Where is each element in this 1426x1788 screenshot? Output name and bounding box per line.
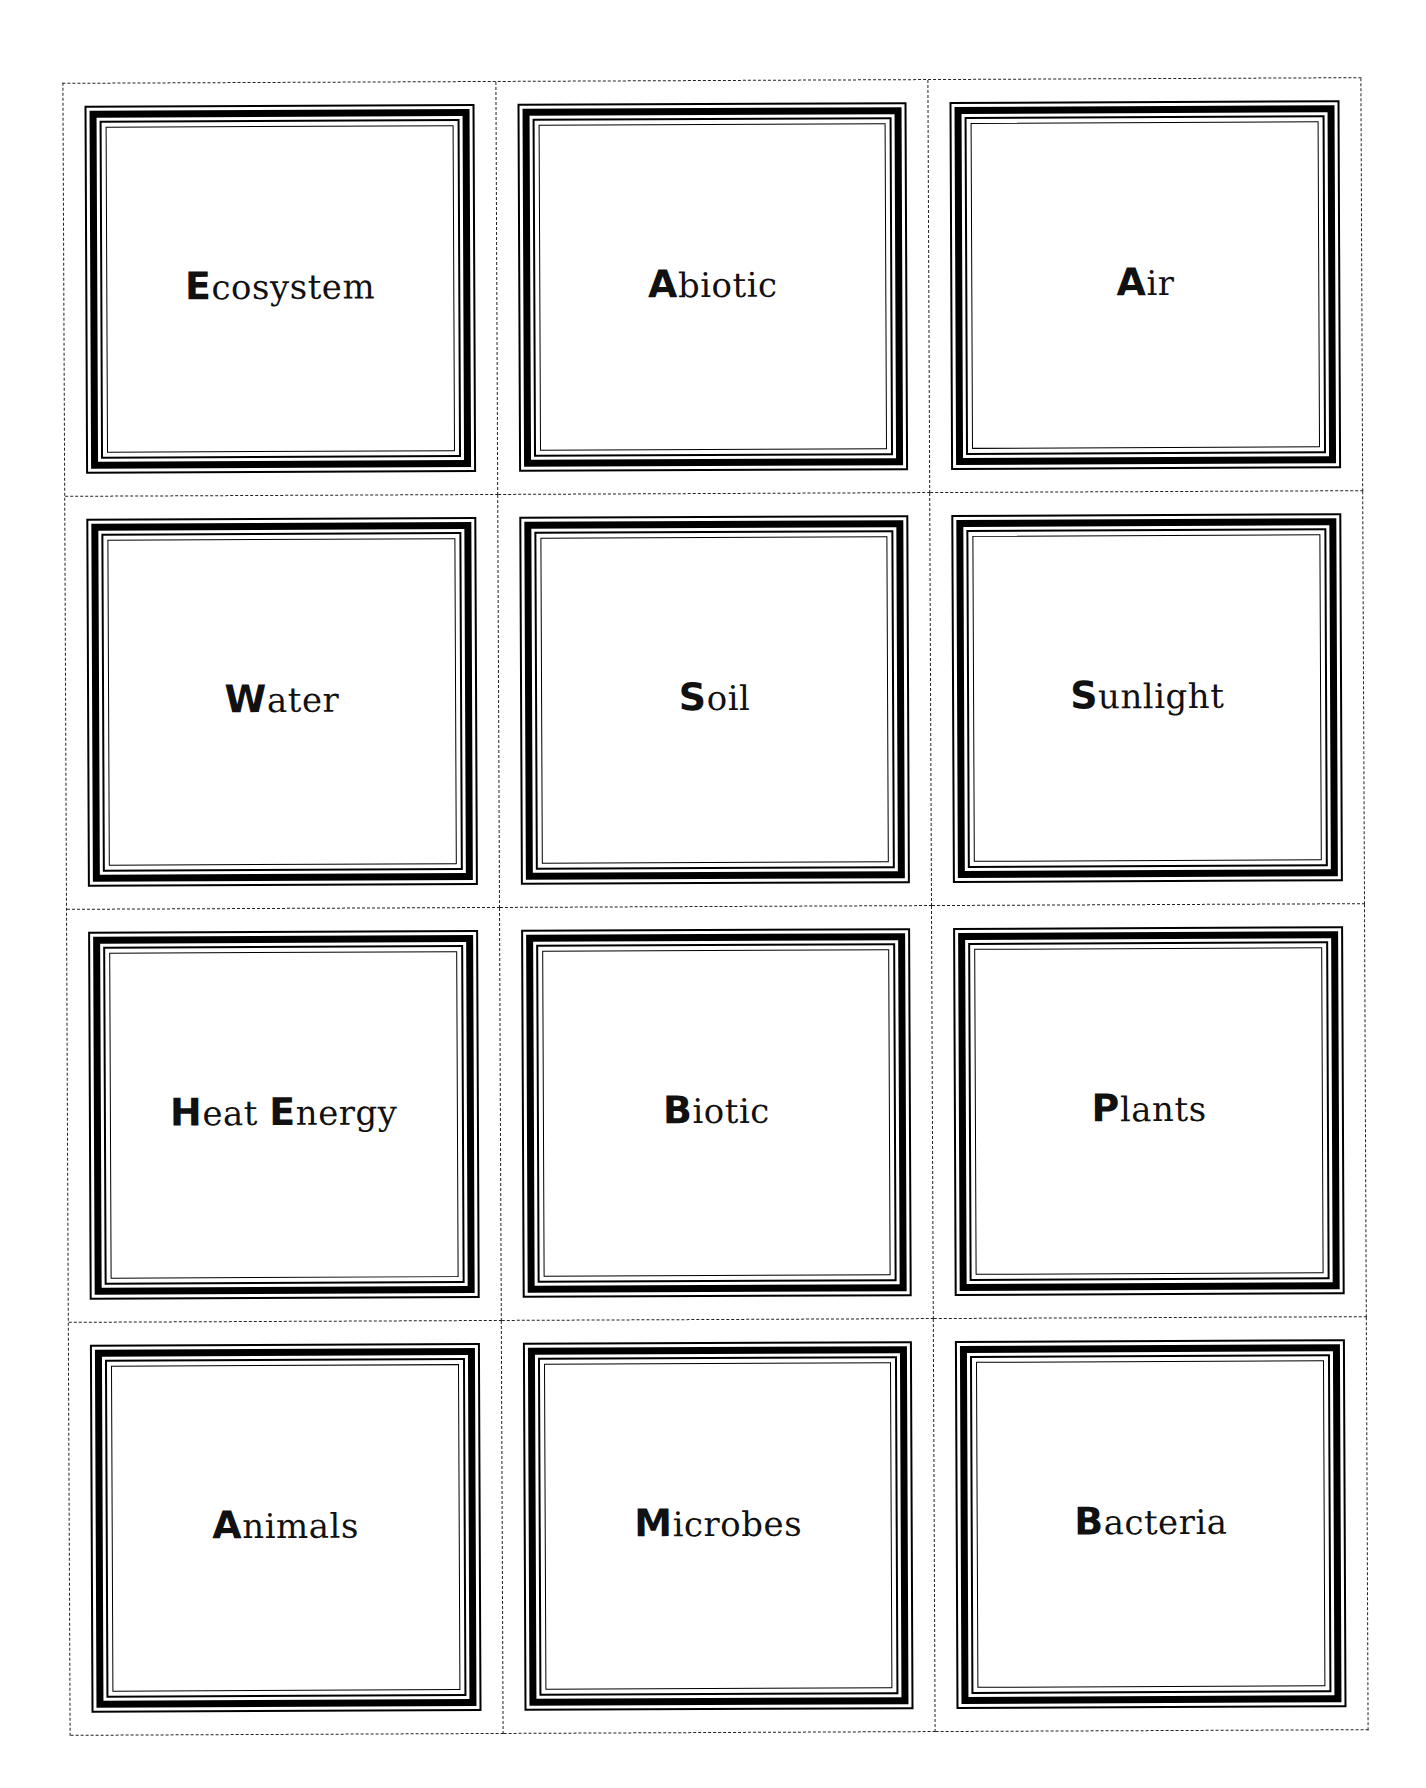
card-label-water: Water [224,677,339,722]
card-rest: ater [267,680,339,720]
card-initial: S [679,675,707,719]
card-initial: H [170,1090,203,1134]
card-label-microbes: Microbes [634,1501,802,1546]
card-cell-biotic: Biotic [500,906,934,1321]
card-initial: S [1070,673,1098,717]
card-initial: A [648,262,678,306]
card-rest-2: nergy [296,1092,398,1132]
card-frame: Air [950,100,1341,470]
card-cell-bacteria: Bacteria [934,1317,1368,1732]
card-label-soil: Soil [679,675,751,719]
card-initial: B [663,1088,693,1132]
card-cell-sunlight: Sunlight [931,491,1365,906]
card-rest: unlight [1098,676,1225,717]
flashcard-sheet: Ecosystem Abiotic Air Water Soil Sunligh… [62,77,1368,1736]
card-initial: M [634,1501,673,1545]
card-rest: oil [707,678,751,718]
card-initial: A [212,1503,242,1547]
card-cell-ecosystem: Ecosystem [63,82,497,497]
card-cell-abiotic: Abiotic [496,80,930,495]
card-label-plants: Plants [1091,1086,1206,1131]
card-initial: W [224,677,267,721]
card-rest: cosystem [211,266,375,307]
card-initial-2: E [269,1090,296,1134]
card-frame: Plants [953,926,1344,1296]
card-rest: nimals [242,1506,359,1547]
card-initial: B [1074,1499,1104,1543]
card-label-bacteria: Bacteria [1074,1499,1228,1544]
card-rest: acteria [1103,1502,1227,1543]
card-label-air: Air [1116,260,1174,304]
card-frame: Microbes [523,1341,914,1711]
card-frame: Sunlight [952,513,1343,883]
card-cell-animals: Animals [69,1321,503,1736]
card-initial: E [185,264,212,308]
card-rest: eat [202,1093,269,1133]
card-cell-water: Water [65,495,499,910]
card-rest: lants [1120,1089,1207,1129]
card-frame: Bacteria [955,1339,1346,1709]
card-frame: Abiotic [517,102,908,472]
card-cell-heat-energy: Heat Energy [67,908,501,1323]
card-label-biotic: Biotic [663,1088,770,1132]
card-cell-air: Air [929,78,1363,493]
card-rest: biotic [678,265,778,305]
card-cell-microbes: Microbes [501,1319,935,1734]
card-frame: Soil [519,515,910,885]
card-label-heat-energy: Heat Energy [170,1089,398,1134]
card-label-ecosystem: Ecosystem [185,263,375,308]
card-initial: A [1116,260,1146,304]
card-rest: icrobes [673,1504,803,1545]
card-label-sunlight: Sunlight [1070,673,1224,718]
card-label-animals: Animals [212,1503,359,1548]
card-frame: Animals [90,1343,481,1713]
card-cell-soil: Soil [498,493,932,908]
card-frame: Biotic [521,928,912,1298]
card-frame: Water [86,517,477,887]
card-rest: ir [1146,263,1174,303]
card-label-abiotic: Abiotic [648,262,778,307]
card-initial: P [1091,1086,1120,1130]
card-rest: iotic [692,1091,770,1131]
card-cell-plants: Plants [932,904,1366,1319]
card-frame: Ecosystem [85,104,476,474]
card-frame: Heat Energy [88,930,479,1300]
